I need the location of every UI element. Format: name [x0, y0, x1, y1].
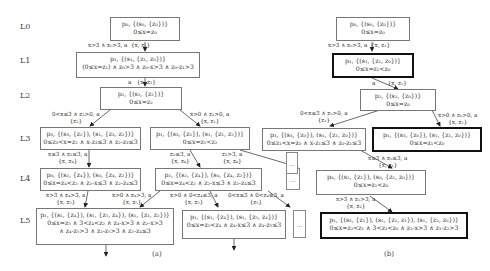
edge-label-b-2-3a: 0<x≤3 ∧ z₀>0, a {z₁}	[300, 110, 348, 124]
node-b-l5-highlighted: p₁, {(s₃, {z₁}), (s₁, {z₂, z₁}), (s₁, {z…	[320, 212, 468, 239]
caption-b: (b)	[384, 250, 394, 258]
node-a-l3-right: p₁, {(s₃, {z₂}), (s₁, {z₁, z₂})} 0≤x=z₁<…	[150, 127, 250, 150]
edge-label-b-12: a {x, z₀}	[372, 80, 407, 87]
edge-label-a-01: x>3 ∧ z₀>3, a {x, z₁}	[88, 42, 150, 49]
node-location: p₀, {(s₀, {z₀})}	[111, 20, 179, 28]
edge-label-b-01: x>3 ∧ z₀>3, a {x, z₁}	[328, 42, 390, 49]
node-b-l3-right-highlighted: p₁, {(s₃, {z₀}), (s₁, {z₁, z₀})} 0≤x=z₁<…	[372, 127, 482, 152]
edge-label-a-3a-4a: x≤3 ∧ z₂≤3, a {x, z₄}	[48, 151, 87, 165]
edge-label-b-3a-4: x≤3 ∧ z₀≤3, a {x, z₁}	[368, 155, 407, 169]
edge-label-a-4b-5a: x>0 ∧ z₄>3, a {x, z₅}	[112, 192, 151, 206]
node-a-l3-left: p₃, {(s₃, {z₂}), (s₁, {z₃, z₂})} 0≤z₃<x=…	[40, 127, 141, 150]
edge-label-a-2-3a: 0<x≤3 ∧ z₂>0, a {z₃}	[52, 111, 100, 125]
node-a-l1: p₁, {(s₁, {z₁, z₀})} (0≤x=z₁) ∧ z₀>3 ∧ z…	[76, 52, 200, 78]
node-constraint: 0≤x=z₀	[111, 28, 179, 36]
edge-label-a-3b-more: z₂>3, a {x, z₄}	[222, 151, 242, 165]
node-b-l2: p₂, {(s₂, {z₀})} 0≤x=z₀	[360, 89, 436, 111]
caption-a: (a)	[152, 250, 162, 258]
node-a-l4-left: p₀, {(s₂, {z₄}), (s₀, {z₄, z₂})} 0≤x=z₄<…	[40, 168, 141, 191]
node-b-l4: p₀, {(s₂, {z₁}), (s₀, {z₁, z₀})} 0≤x=z₁<…	[316, 170, 426, 195]
node-a-l2: p₂, {(s₂, {z₂})} 0≤x=z₂	[100, 87, 182, 110]
node-a-l5-left: p₁, {(s₁, {z₄}), (s₁, {z₅, z₄}), (s₁, {z…	[36, 208, 174, 245]
edge-label-a-2-3b: x>0 ∧ z₂>0, a {x, z₁}	[190, 111, 229, 125]
edge-label-a-12: a {x, z₂}	[128, 79, 156, 86]
edge-label-a-4a-5a: x>3 ∧ z₄>3, a {x, z₅}	[46, 192, 85, 206]
node-a-l0: p₀, {(s₀, {z₀})} 0≤x=z₀	[110, 17, 180, 41]
ellipsis-node-a-l5: ...	[293, 210, 306, 238]
ellipsis-node-b-l3: ...	[286, 152, 298, 174]
node-b-l1-highlighted: p₁, {(s₁, {z₁, z₀})} 0≤x=z₁<z₀	[332, 53, 414, 78]
edge-label-b-4-5: x>3 ∧ z₁>3, a {x, z₂}	[336, 196, 375, 210]
edge-label-a-4b-5b: x>0 ∧ 0<z₄≤3, a {x, z₅}	[170, 192, 218, 206]
edge-label-a-3b-4b: z₂≤3, a {x, z₄}	[170, 151, 190, 165]
edge-label-b-2-3b: x>0 ∧ z₀>0, a {x, z₁}	[438, 112, 477, 126]
node-b-l3-left: p₃, {(s₃, {z₀}), (s₁, {z₁, z₀})} 0≤z₁<x=…	[262, 128, 366, 151]
node-a-l5-mid: p₁, {(s₁, {z₄}), (s₁, {z₅, z₄})} 0≤x=z₅<…	[182, 210, 286, 239]
node-b-l0: p₀, {(s₀, {z₀})} 0≤x=z₀	[336, 17, 410, 41]
edge-label-a-4b-more: 0<x≤3 ∧ 0<z₄≤3, a {z₅}	[228, 192, 284, 206]
node-a-l4-right: p₂, {(s₂, {z₄}), (s₀, {z₄, z₂})} 0≤x=z₄<…	[155, 168, 262, 191]
